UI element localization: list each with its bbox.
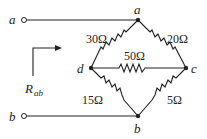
resistor-50-ohm (91, 64, 186, 72)
resistor-15-label: 15Ω (82, 93, 103, 107)
node-d (89, 66, 93, 70)
rab-label: R (24, 81, 33, 96)
node-a (136, 18, 140, 22)
resistor-20-label: 20Ω (167, 32, 188, 46)
resistor-5-label: 5Ω (167, 93, 182, 107)
rab-subscript: ab (34, 88, 44, 98)
node-b-label: b (134, 121, 141, 136)
terminal-b-circle (22, 114, 27, 119)
node-a-label: a (134, 2, 141, 17)
resistor-5-ohm (138, 68, 186, 116)
node-b (136, 114, 140, 118)
arrow-head-icon (55, 45, 62, 51)
resistor-15-ohm (91, 68, 138, 116)
terminal-b-label: b (9, 109, 16, 124)
terminal-a-circle (22, 18, 27, 23)
rab-arrow-line (33, 48, 58, 76)
resistor-50-label: 50Ω (124, 49, 145, 63)
node-c (184, 66, 188, 70)
node-c-label: c (191, 61, 197, 76)
resistor-30-label: 30Ω (86, 32, 107, 46)
node-d-label: d (77, 61, 84, 76)
terminal-a-label: a (9, 12, 16, 27)
circuit-diagram: a b a b c d 30Ω 20Ω 50Ω 15Ω 5Ω R ab (0, 0, 207, 139)
